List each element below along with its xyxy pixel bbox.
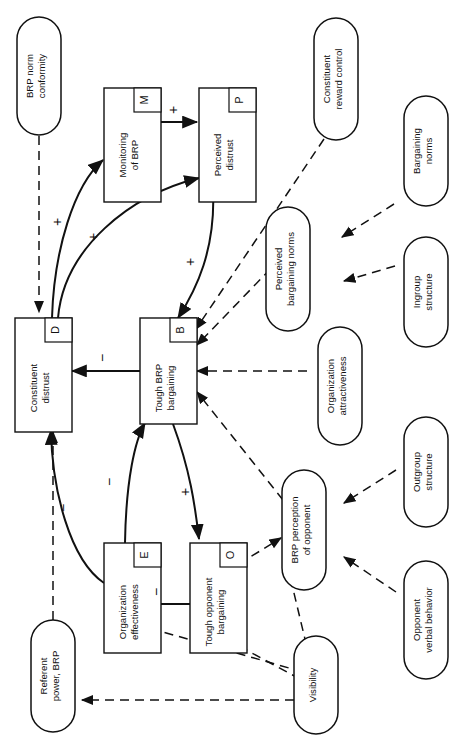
node-label-line: verbal behavior [423,586,434,652]
node-label-line: bargaining [165,366,176,411]
node-label-line: Opponent [411,599,422,641]
label-referent-power-brp: Referent power, BRP [38,651,61,702]
node-label-line: Bargaining [411,128,422,174]
node-label-line: Organization [117,585,128,639]
edge-sign-distrust-to-monitoring: + [49,218,65,226]
figure-canvas: Monitoring of BRP M Perceived distrust P… [0,0,468,737]
edge-bargaining-norms-to-perceived-norms [342,204,394,237]
node-label-line: Perceived [212,134,223,177]
node-label-line: reward control [333,49,344,110]
node-code: D [49,326,61,334]
node-label-line: BRP norm [24,54,35,98]
node-label-line: BRP perception [289,496,300,563]
node-label-line: structure [423,453,434,490]
edge-outgroup-structure-to-perception [344,470,396,503]
label-brp-norm-conformity: BRP norm conformity [24,54,47,98]
node-label-line: Ingroup [411,276,422,309]
node-label-line: of opponent [301,504,312,555]
edge-sign-distrust-to-perceived: + [85,233,101,241]
node-label-line: distrust [224,139,235,170]
edge-sign-monitoring-to-perceived: + [165,106,181,114]
node-label-line: of BRP [129,140,140,170]
node-label-line: attractiveness [337,356,348,415]
edge-effectiveness-to-tough-brp [125,423,145,543]
edge-sign-tough-brp-to-distrust: − [94,354,110,362]
node-label-line: Visibility [307,668,318,703]
node-label-line: bargaining norms [285,232,296,306]
edge-perceived-to-tough-brp [178,188,213,318]
node-label-line: Organization [325,359,336,413]
edge-sign-tough-opponent-to-effectiveness: − [148,588,164,596]
node-label-line: Constituent [321,54,332,103]
node-label-line: norms [423,137,434,164]
node-label-line: Monitoring [117,133,128,178]
causal-diagram: Monitoring of BRP M Perceived distrust P… [0,0,468,737]
node-label-line: Tough opponent [203,577,214,646]
edge-sign-tough-brp-to-tough-opponent: + [177,488,193,496]
label-organization-attractiveness: Organization attractiveness [325,356,348,415]
node-label-line: power, BRP [50,651,61,702]
label-visibility: Visibility [307,668,318,703]
node-label-line: Referent [38,657,49,694]
edge-tough-brp-to-tough-opponent [173,424,199,539]
label-outgroup-structure: Outgroup structure [411,452,434,492]
edge-sign-effectiveness-to-tough-brp: − [101,478,117,486]
edge-sign-effectiveness-to-distrust: − [55,504,71,512]
node-code: B [174,326,186,333]
node-label-line: Tough BRP [153,364,164,413]
label-constituent-reward-control: Constituent reward control [321,49,344,110]
edge-opponent-behavior-to-perception [344,557,396,592]
node-label-line: structure [423,273,434,310]
node-label-line: bargaining [215,590,226,635]
node-label-line: distrust [40,372,51,403]
label-brp-perception-of-opponent: BRP perception of opponent [289,496,312,563]
node-code: P [233,96,245,103]
edge-sign-perceived-to-tough-brp: + [182,258,198,266]
node-code: O [224,550,236,559]
node-label-line: Constituent [28,363,39,412]
node-code: M [138,95,150,104]
node-label-line: Outgroup [411,452,422,492]
label-ingroup-structure: Ingroup structure [411,273,434,310]
edge-perception-to-tough-brp [197,392,283,500]
node-code: E [138,551,150,558]
node-label-line: Perceived [273,248,284,291]
node-label-line: conformity [36,54,47,98]
node-label-line: effectiveness [129,584,140,640]
edge-ingroup-structure-to-perceived-norms [344,266,395,281]
